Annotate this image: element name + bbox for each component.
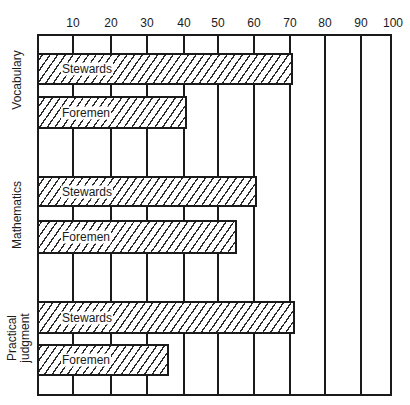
tick-label-40: 40 [177, 16, 190, 30]
bar-label-foremen: Foremen [61, 354, 111, 367]
bar-vocabulary-stewards: Stewards [37, 53, 293, 85]
gridline-60 [253, 34, 255, 396]
bar-mathematics-stewards: Stewards [37, 176, 257, 207]
gridline-70 [289, 34, 291, 396]
bar-label-stewards: Stewards [61, 63, 113, 76]
tick-label-90: 90 [354, 16, 367, 30]
tick-label-50: 50 [211, 16, 224, 30]
bar-label-foremen: Foremen [61, 106, 111, 119]
tick-label-20: 20 [104, 16, 117, 30]
tick-label-30: 30 [140, 16, 153, 30]
tick-label-100: 100 [383, 16, 403, 30]
bar-label-foremen: Foremen [61, 231, 111, 244]
category-label-practical-line2: judgment [19, 313, 32, 362]
bar-mathematics-foremen: Foremen [37, 220, 237, 254]
bar-vocabulary-foremen: Foremen [37, 96, 187, 129]
gridline-20 [110, 34, 112, 396]
bar-label-stewards: Stewards [61, 185, 113, 198]
gridline-50 [217, 34, 219, 396]
category-label-practical-judgment: Practical judgment [6, 313, 32, 362]
tick-label-70: 70 [283, 16, 296, 30]
gridline-10 [72, 34, 74, 396]
gridline-90 [360, 34, 362, 396]
gridline-30 [146, 34, 148, 396]
gridline-40 [183, 34, 185, 396]
bar-label-stewards: Stewards [61, 311, 113, 324]
category-label-vocabulary: Vocabulary [11, 50, 24, 109]
plot-frame [37, 34, 392, 396]
tick-label-10: 10 [66, 16, 79, 30]
gridline-80 [324, 34, 326, 396]
category-label-mathematics: Mathematics [11, 181, 24, 249]
bar-chart: 10 20 30 40 50 60 70 80 90 100 Stewards … [0, 0, 410, 405]
bar-practical-stewards: Stewards [37, 301, 295, 334]
tick-label-60: 60 [247, 16, 260, 30]
bar-practical-foremen: Foremen [37, 344, 169, 376]
tick-label-80: 80 [318, 16, 331, 30]
